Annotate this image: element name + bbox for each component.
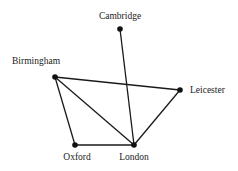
- node-oxford: [72, 142, 78, 148]
- node-cambridge: [117, 26, 123, 32]
- label-oxford: Oxford: [63, 152, 91, 162]
- nodes: [52, 26, 183, 148]
- label-cambridge: Cambridge: [99, 11, 141, 21]
- edges: [55, 29, 180, 145]
- edge-birmingham-oxford: [55, 77, 75, 145]
- edge-cambridge-london: [120, 29, 134, 145]
- edge-birmingham-london: [55, 77, 134, 145]
- edge-birmingham-leicester: [55, 77, 180, 90]
- labels: CambridgeBirminghamLeicesterOxfordLondon: [12, 11, 226, 162]
- label-leicester: Leicester: [190, 85, 226, 95]
- node-birmingham: [52, 74, 58, 80]
- node-leicester: [177, 87, 183, 93]
- label-birmingham: Birmingham: [12, 56, 61, 66]
- node-london: [131, 142, 137, 148]
- edge-london-leicester: [134, 90, 180, 145]
- label-london: London: [119, 152, 149, 162]
- graph-diagram: CambridgeBirminghamLeicesterOxfordLondon: [0, 0, 238, 171]
